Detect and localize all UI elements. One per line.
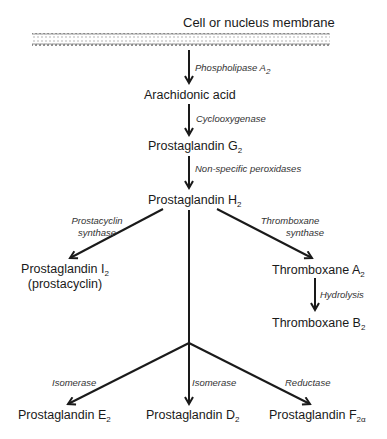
enzyme-prostacyclin-synthase: Prostacyclinsynthase bbox=[62, 215, 132, 239]
subscript: 2 bbox=[104, 269, 108, 278]
enzyme-thromboxane-synthase: Thromboxanesynthase bbox=[250, 215, 330, 239]
node-prostaglandin-h2: Prostaglandin H2 bbox=[148, 193, 241, 207]
node-text: Prostaglandin H bbox=[148, 193, 237, 207]
membrane bbox=[32, 33, 330, 46]
node-prostaglandin-e2: Prostaglandin E2 bbox=[18, 408, 111, 422]
enzyme-text: synthase bbox=[250, 227, 330, 239]
enzyme-peroxidases: Non-specific peroxidases bbox=[195, 163, 301, 174]
subscript: 2 bbox=[235, 415, 239, 424]
node-thromboxane-a2: Thromboxane A2 bbox=[272, 263, 365, 277]
enzyme-hydrolysis: Hydrolysis bbox=[320, 289, 364, 300]
enzyme-text: Phospholipase A bbox=[195, 62, 266, 73]
enzyme-text: synthase bbox=[62, 227, 132, 239]
subscript: 2 bbox=[237, 200, 241, 209]
node-text: Thromboxane B bbox=[272, 316, 361, 330]
subscript: 2 bbox=[106, 415, 110, 424]
enzyme-reductase: Reductase bbox=[285, 377, 330, 388]
enzyme-isomerase-d2: Isomerase bbox=[192, 377, 236, 388]
node-text: Prostaglandin I bbox=[21, 262, 104, 276]
node-note: (prostacyclin) bbox=[15, 277, 115, 292]
node-prostaglandin-f2a: Prostaglandin F2α bbox=[269, 408, 366, 422]
node-text: Prostaglandin F bbox=[269, 408, 357, 422]
enzyme-phospholipase: Phospholipase A2 bbox=[195, 62, 270, 73]
node-text: Prostaglandin D bbox=[146, 408, 235, 422]
node-prostaglandin-i2: Prostaglandin I2(prostacyclin) bbox=[15, 262, 115, 292]
enzyme-cyclooxygenase: Cyclooxygenase bbox=[196, 113, 266, 124]
enzyme-text: Prostacyclin bbox=[62, 215, 132, 227]
node-prostaglandin-g2: Prostaglandin G2 bbox=[148, 139, 242, 153]
subscript: 2 bbox=[266, 67, 270, 76]
node-prostaglandin-d2: Prostaglandin D2 bbox=[146, 408, 239, 422]
node-text: Thromboxane A bbox=[272, 263, 360, 277]
membrane-label: Cell or nucleus membrane bbox=[183, 15, 335, 30]
node-text: Prostaglandin E bbox=[18, 408, 106, 422]
subscript: 2α bbox=[357, 415, 366, 424]
node-thromboxane-b2: Thromboxane B2 bbox=[272, 316, 365, 330]
subscript: 2 bbox=[238, 146, 242, 155]
subscript: 2 bbox=[361, 323, 365, 332]
node-arachidonic-acid: Arachidonic acid bbox=[144, 88, 236, 102]
enzyme-isomerase-e2: Isomerase bbox=[52, 377, 96, 388]
subscript: 2 bbox=[360, 270, 364, 279]
enzyme-text: Thromboxane bbox=[250, 215, 330, 227]
node-text: Prostaglandin G bbox=[148, 139, 238, 153]
